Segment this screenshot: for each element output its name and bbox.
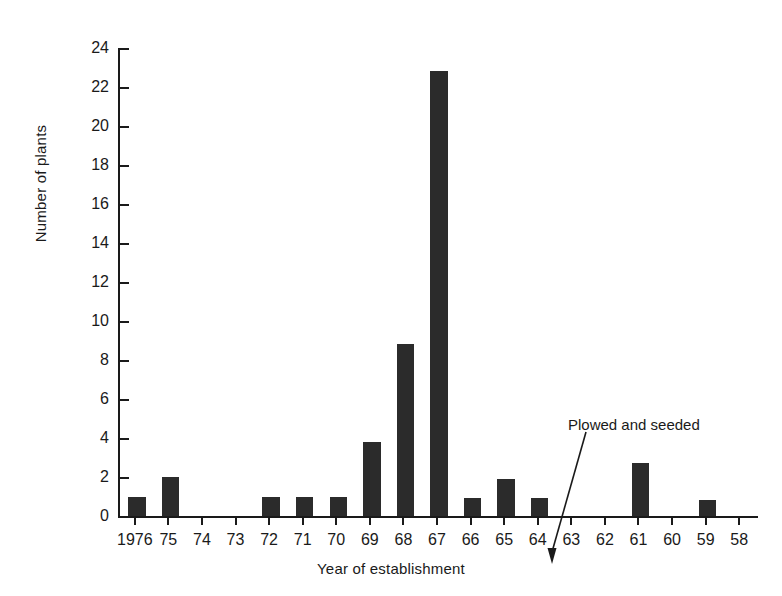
bar: [430, 71, 447, 516]
x-axis-tick-mark: [436, 516, 438, 525]
x-axis-tick-mark: [268, 516, 270, 525]
x-axis-tick-mark: [235, 516, 237, 525]
y-axis-tick-label: 20: [69, 116, 109, 135]
x-axis-tick-label: 73: [227, 530, 245, 550]
y-axis-tick-label: 16: [69, 194, 109, 213]
y-axis-tick-label: 12: [69, 272, 109, 291]
x-axis-tick-mark: [369, 516, 371, 525]
y-axis-tick-label: 2: [69, 467, 109, 486]
annotation-label: Plowed and seeded: [568, 416, 700, 433]
bar: [296, 497, 313, 517]
y-axis-tick-label: 8: [69, 350, 109, 369]
x-axis-tick-mark: [738, 516, 740, 525]
x-axis-tick-label: 60: [663, 530, 681, 550]
x-axis-tick-mark: [705, 516, 707, 525]
x-axis-tick-label: 59: [697, 530, 715, 550]
x-axis-tick-label: 72: [260, 530, 278, 550]
x-axis-tick-label: 67: [428, 530, 446, 550]
x-axis-tick-label: 68: [395, 530, 413, 550]
bar: [531, 498, 548, 516]
x-axis-tick-label: 66: [462, 530, 480, 550]
x-axis-tick-label: 64: [529, 530, 547, 550]
bar: [330, 497, 347, 517]
y-axis-tick-label: 18: [69, 155, 109, 174]
x-axis-tick-mark: [402, 516, 404, 525]
x-axis-tick-mark: [637, 516, 639, 525]
x-axis-tick-label: 74: [193, 530, 211, 550]
x-axis-line: [118, 516, 758, 518]
x-axis-tick-mark: [335, 516, 337, 525]
x-axis-tick-mark: [503, 516, 505, 525]
x-axis-tick-label: 1976: [117, 530, 153, 550]
y-axis-tick-label: 6: [69, 389, 109, 408]
y-axis-tick-label: 14: [69, 233, 109, 252]
plot-area: 024681012141618202224 197675747372717069…: [118, 48, 758, 518]
bar: [699, 500, 716, 516]
bar: [262, 497, 279, 517]
y-axis-tick-label: 10: [69, 311, 109, 330]
bar-series: [120, 48, 758, 516]
bar: [397, 344, 414, 516]
bar: [497, 479, 514, 516]
x-axis-tick-label: 70: [327, 530, 345, 550]
y-axis-title: Number of plants: [32, 84, 49, 284]
x-axis-tick-label: 65: [495, 530, 513, 550]
x-axis-tick-mark: [167, 516, 169, 525]
y-axis-tick-label: 4: [69, 428, 109, 447]
x-axis-tick-label: 61: [630, 530, 648, 550]
x-axis-tick-label: 75: [159, 530, 177, 550]
y-axis-tick-label: 24: [69, 38, 109, 57]
x-axis-tick-mark: [201, 516, 203, 525]
x-axis-tick-label: 71: [294, 530, 312, 550]
x-axis-tick-mark: [537, 516, 539, 525]
bar: [632, 463, 649, 516]
x-axis-tick-label: 62: [596, 530, 614, 550]
y-axis-tick-label: 22: [69, 77, 109, 96]
x-axis-title: Year of establishment: [0, 560, 782, 577]
y-axis-tick-label: 0: [69, 506, 109, 525]
x-axis-tick-label: 63: [562, 530, 580, 550]
x-axis-tick-mark: [570, 516, 572, 525]
bar: [128, 497, 145, 517]
bar: [363, 442, 380, 516]
x-axis-tick-mark: [134, 516, 136, 525]
x-axis-tick-mark: [604, 516, 606, 525]
bar: [162, 477, 179, 516]
x-axis-tick-mark: [302, 516, 304, 525]
bar-chart-figure: Number of plants 024681012141618202224 1…: [0, 0, 782, 596]
bar: [464, 498, 481, 516]
x-axis-tick-label: 69: [361, 530, 379, 550]
x-axis-tick-mark: [671, 516, 673, 525]
x-axis-tick-mark: [470, 516, 472, 525]
x-axis-tick-label: 58: [730, 530, 748, 550]
y-axis-tick-mark: [120, 516, 129, 518]
